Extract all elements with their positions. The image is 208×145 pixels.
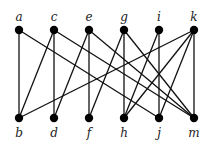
node-a: [15, 26, 23, 34]
node-f: [85, 114, 93, 122]
node-label-g: g: [120, 10, 128, 24]
node-label-j: j: [154, 126, 161, 140]
node-d: [50, 114, 58, 122]
node-m: [190, 114, 198, 122]
edge-e-d: [54, 30, 89, 118]
edge-i-h: [124, 30, 159, 118]
node-b: [15, 114, 23, 122]
node-label-h: h: [120, 126, 128, 140]
node-e: [85, 26, 93, 34]
node-label-b: b: [15, 126, 23, 140]
node-label-k: k: [190, 10, 197, 24]
edge-k-b: [19, 30, 194, 118]
labels: acegikbdfhjm: [15, 10, 200, 140]
node-label-a: a: [15, 10, 22, 24]
node-j: [155, 114, 163, 122]
node-label-f: f: [86, 126, 94, 140]
node-i: [155, 26, 163, 34]
node-label-m: m: [188, 126, 199, 140]
node-h: [120, 114, 128, 122]
edges: [19, 30, 194, 118]
edge-c-b: [19, 30, 54, 118]
node-label-i: i: [157, 10, 161, 24]
node-label-d: d: [50, 126, 58, 140]
edge-k-j: [159, 30, 194, 118]
bipartite-graph: acegikbdfhjm: [0, 0, 208, 145]
node-label-c: c: [51, 10, 58, 24]
node-label-e: e: [85, 10, 92, 24]
node-k: [190, 26, 198, 34]
node-c: [50, 26, 58, 34]
node-g: [120, 26, 128, 34]
